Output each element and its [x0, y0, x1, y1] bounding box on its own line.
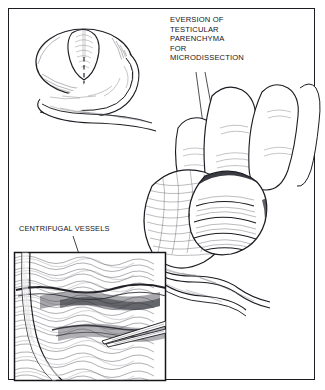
eversion-of-testicular-parenchyma-label: EVERSION OF TESTICULAR PARENCHYMA FOR MI… [170, 15, 244, 63]
plate-frame [8, 8, 315, 380]
illustration-plate: EVERSION OF TESTICULAR PARENCHYMA FOR MI… [0, 0, 325, 390]
centrifugal-vessels-label: CENTRIFUGAL VESSELS [19, 224, 109, 234]
